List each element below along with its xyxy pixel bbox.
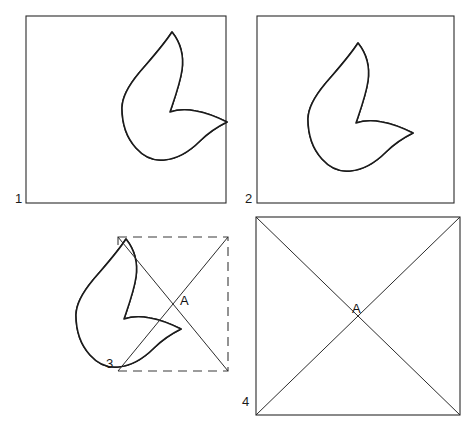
panel-4-number: 4 — [242, 394, 249, 409]
leaf-outline-top — [76, 239, 181, 367]
panel-1: 1 — [15, 16, 240, 206]
leaf-outline-top — [308, 43, 413, 171]
panel-3-number: 3 — [106, 356, 113, 371]
figure-container: 1 2 A 3 — [0, 0, 472, 421]
panel-2-number: 2 — [245, 191, 252, 206]
panel-4-vertex-label: A — [352, 301, 361, 316]
panel-1-shape — [110, 20, 240, 170]
panel-2-shape — [296, 31, 426, 181]
panel-4: A 4 — [242, 217, 460, 415]
panel-1-number: 1 — [15, 191, 22, 206]
panel-3-diagonals — [118, 237, 228, 371]
panel-3-vertex-label: A — [180, 293, 189, 308]
panel-4-diagonals — [256, 217, 460, 415]
four-panel-figure: 1 2 A 3 — [0, 0, 472, 421]
panel-2: 2 — [245, 16, 454, 206]
leaf-outline-top — [122, 32, 227, 160]
panel-3: A 3 — [64, 227, 228, 377]
